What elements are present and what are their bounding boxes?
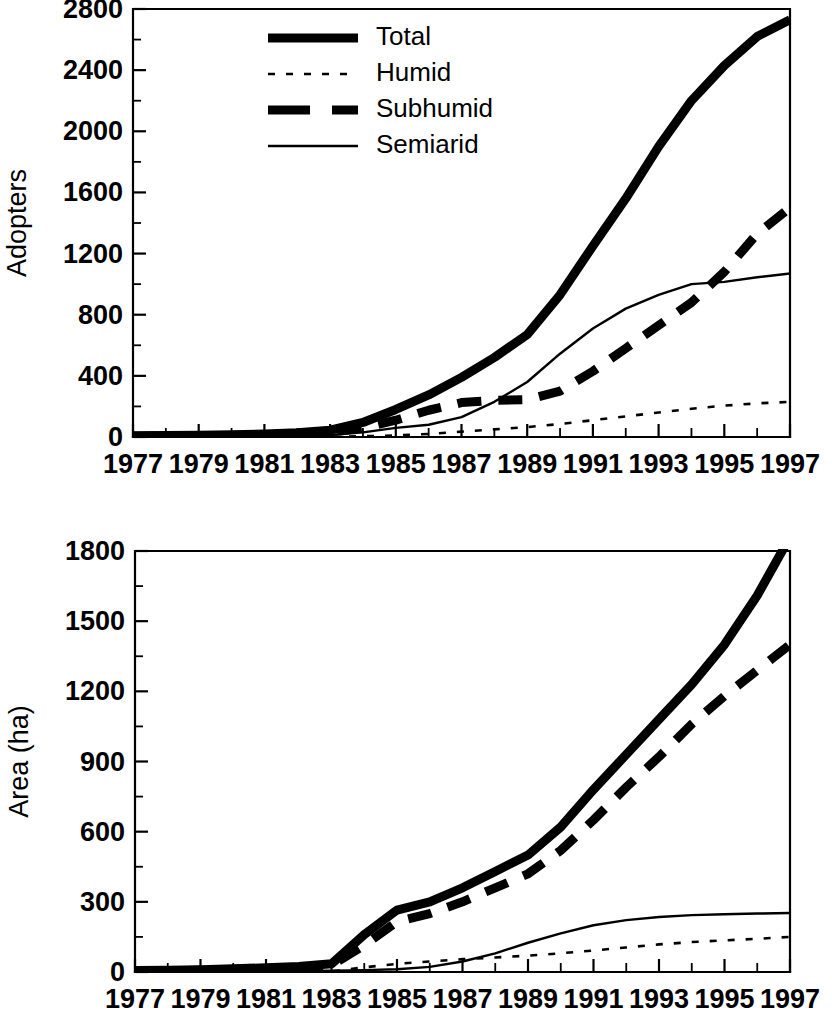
x-tick-label: 1997	[760, 984, 820, 1014]
x-tick-label: 1981	[236, 984, 296, 1014]
series-group	[135, 537, 790, 972]
x-tick-label: 1989	[498, 984, 558, 1014]
y-axis-title: Area (ha)	[4, 705, 34, 818]
x-tick-label: 1987	[431, 449, 491, 479]
x-tick-label: 1991	[563, 449, 623, 479]
x-tick-label: 1993	[629, 449, 689, 479]
legend-label-semiarid: Semiarid	[376, 129, 479, 159]
x-tick-label: 1983	[301, 984, 361, 1014]
figure-root: 0400800120016002000240028001977197919811…	[0, 0, 832, 1034]
series-line-total	[133, 20, 790, 436]
series-line-subhumid	[133, 208, 790, 437]
x-tick-label: 1977	[103, 449, 163, 479]
y-tick-label: 900	[80, 747, 125, 777]
chart-panel-adopters: 0400800120016002000240028001977197919811…	[0, 0, 832, 500]
series-group	[133, 20, 790, 437]
y-tick-label: 2400	[63, 55, 123, 85]
y-tick-label: 1200	[63, 239, 123, 269]
x-tick-label: 1979	[169, 449, 229, 479]
x-tick-label: 1989	[497, 449, 557, 479]
x-tick-label: 1981	[234, 449, 294, 479]
y-tick-label: 0	[110, 957, 125, 987]
y-tick-label: 1600	[63, 177, 123, 207]
area-chart-svg: 0300600900120015001800197719791981198319…	[0, 515, 832, 1034]
x-tick-label: 1983	[300, 449, 360, 479]
x-tick-label: 1985	[367, 984, 427, 1014]
x-tick-label: 1995	[694, 984, 754, 1014]
plot-frame	[135, 551, 790, 972]
y-tick-label: 1200	[65, 676, 125, 706]
y-tick-label: 400	[78, 361, 123, 391]
y-tick-label: 2000	[63, 116, 123, 146]
y-tick-label: 300	[80, 887, 125, 917]
y-tick-label: 0	[108, 422, 123, 452]
adopters-chart-svg: 0400800120016002000240028001977197919811…	[0, 0, 832, 500]
legend-label-subhumid: Subhumid	[376, 93, 493, 123]
x-tick-label: 1991	[563, 984, 623, 1014]
y-tick-label: 1500	[65, 606, 125, 636]
x-tick-label: 1995	[694, 449, 754, 479]
chart-panel-area: 0300600900120015001800197719791981198319…	[0, 515, 832, 1034]
y-tick-label: 800	[78, 300, 123, 330]
x-tick-label: 1997	[760, 449, 820, 479]
x-tick-label: 1993	[629, 984, 689, 1014]
legend: TotalHumidSubhumidSemiarid	[268, 21, 493, 159]
x-tick-label: 1977	[105, 984, 165, 1014]
legend-label-total: Total	[376, 21, 431, 51]
x-tick-label: 1987	[432, 984, 492, 1014]
x-tick-label: 1985	[366, 449, 426, 479]
x-tick-label: 1979	[170, 984, 230, 1014]
y-tick-label: 1800	[65, 536, 125, 566]
y-axis-title: Adopters	[2, 169, 32, 277]
y-tick-label: 2800	[63, 0, 123, 24]
series-line-subhumid	[135, 645, 790, 972]
y-tick-label: 600	[80, 817, 125, 847]
legend-label-humid: Humid	[376, 57, 451, 87]
